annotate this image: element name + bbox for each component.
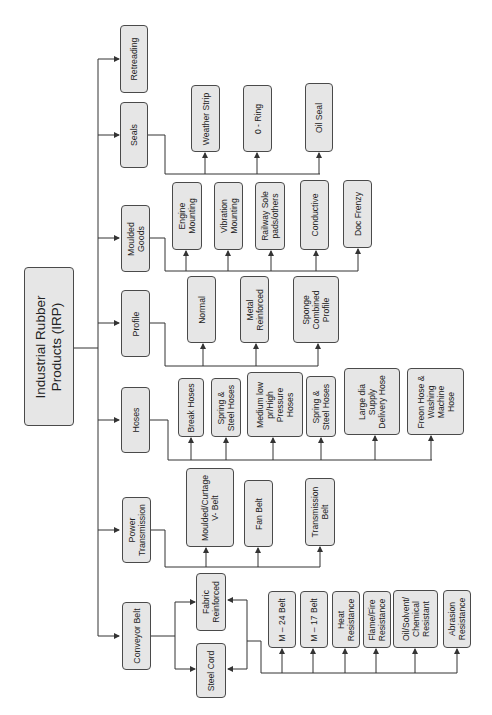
category-conveyor-belt: Conveyor Belt [122, 602, 151, 670]
root-label: Industrial Rubber Products (IRP) [33, 295, 65, 398]
node-abrasion-resistance: Abrasion Resistance [443, 590, 471, 648]
category-label: Conveyor Belt [132, 608, 142, 663]
node-label: Doc Frenzy [353, 192, 363, 236]
irp-hierarchy-diagram: Industrial Rubber Products (IRP) Retread… [0, 0, 492, 715]
node-spring-steel-hoses-1: Spring & Steel Hoses [211, 378, 241, 437]
node-label: Metal Reinforced [245, 289, 265, 331]
node-label: Spring & Steel Hoses [311, 383, 331, 429]
category-label: Moulded Goods [126, 222, 146, 256]
node-label: Normal [197, 296, 207, 324]
node-label: Abrasion Resistance [447, 598, 467, 641]
node-label: Vibration Mounting [219, 198, 239, 233]
node-m17-belt: M – 17 Belt [300, 591, 328, 648]
category-power-transmission: Power Transmission [122, 497, 151, 563]
node-label: Flame/Fire Resistance [367, 598, 387, 641]
node-label: Railway Sole pads/others [260, 191, 280, 241]
category-label: Retreading [129, 37, 139, 80]
node-m24-belt: M – 24 Belt [268, 591, 296, 648]
node-medium-high-pressure-hoses: Medium low pr/High Pressure Hoses [247, 372, 303, 437]
node-engine-mounting: Engine Mounting [172, 182, 202, 250]
node-heat-resistance: Heat Resistance [332, 591, 360, 648]
node-break-hoses: Break Hoses [178, 378, 204, 437]
node-label: Large dia Supply Delivery Hose [357, 375, 387, 429]
node-weather-strip: Weather Strip [191, 85, 220, 152]
node-label: Transmission Belt [310, 487, 330, 538]
category-moulded-goods: Moulded Goods [121, 205, 150, 272]
category-profile: Profile [121, 290, 150, 357]
category-seals: Seals [120, 102, 148, 168]
node-flame-fire-resistance: Flame/Fire Resistance [363, 591, 391, 648]
node-label: Spring & Steel Hoses [216, 384, 236, 430]
node-moulded-curtage-v-belt: Moulded/Curtage V- Belt [186, 468, 234, 547]
node-railway-sole-pads: Railway Sole pads/others [255, 182, 285, 250]
node-label: M – 24 Belt [277, 598, 287, 641]
node-normal: Normal [187, 276, 216, 343]
category-label: Seals [129, 124, 139, 146]
node-label: Fabric Reinforced [201, 581, 221, 623]
node-spring-steel-hoses-2: Spring & Steel Hoses [306, 376, 336, 437]
node-label: M – 17 Belt [309, 598, 319, 641]
node-label: Conductive [310, 194, 320, 237]
category-label: Hoses [131, 408, 141, 433]
node-label: Oil/Solvent/ Chemical Resistant [401, 597, 431, 641]
node-conductive: Conductive [300, 180, 329, 250]
node-vibration-mounting: Vibration Mounting [214, 182, 243, 250]
node-oil-solvent-chemical-resistant: Oil/Solvent/ Chemical Resistant [393, 590, 438, 648]
node-freon-washing-machine-hose: Freon Hose & Washing Machine Hose [407, 368, 464, 435]
node-label: 0 - Ring [253, 103, 263, 133]
node-label: Sponge Combined Profile [301, 290, 331, 329]
node-metal-reinforced: Metal Reinforced [240, 276, 269, 343]
node-fabric-reinforced: Fabric Reinforced [196, 573, 226, 631]
node-label: Weather Strip [201, 92, 211, 144]
node-label: Heat Resistance [336, 598, 356, 641]
node-sponge-combined-profile: Sponge Combined Profile [293, 276, 339, 343]
node-label: Fan Belt [254, 497, 264, 529]
category-retreading: Retreading [120, 25, 148, 93]
node-label: Medium low pr/High Pressure Hoses [255, 382, 295, 428]
node-label: Engine Mounting [177, 198, 197, 233]
category-label: Power Transmission [127, 504, 147, 556]
node-label: Freon Hose & Washing Machine Hose [416, 375, 456, 428]
node-label: Moulded/Curtage V- Belt [200, 475, 220, 541]
node-steel-cord: Steel Cord [196, 643, 226, 698]
category-hoses: Hoses [121, 387, 150, 453]
node-transmission-belt: Transmission Belt [305, 478, 335, 546]
node-fan-belt: Fan Belt [244, 480, 273, 547]
node-label: Steel Cord [206, 650, 216, 691]
node-o-ring: 0 - Ring [243, 85, 272, 152]
node-label: Oil Seal [314, 102, 324, 132]
node-label: Break Hoses [186, 383, 196, 432]
root-node-irp: Industrial Rubber Products (IRP) [24, 267, 74, 426]
node-large-dia-supply-delivery-hose: Large dia Supply Delivery Hose [344, 368, 400, 435]
node-doc-frenzy: Doc Frenzy [343, 180, 372, 248]
node-oil-seal: Oil Seal [305, 83, 333, 152]
category-label: Profile [131, 311, 141, 336]
